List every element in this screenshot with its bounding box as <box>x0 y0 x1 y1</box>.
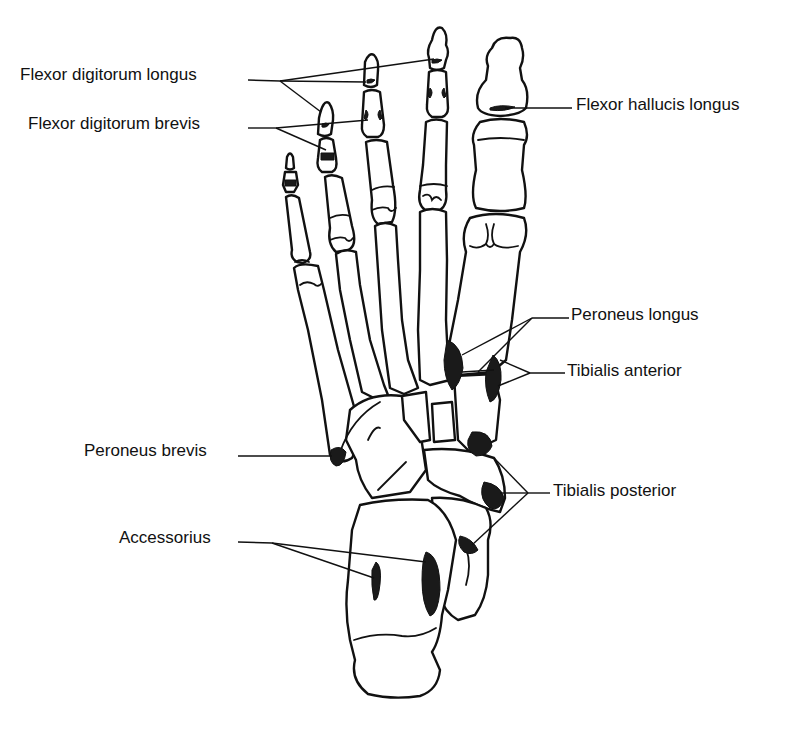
fifth-toe <box>283 154 310 264</box>
label-flexor-hallucis-longus: Flexor hallucis longus <box>576 95 739 115</box>
third-toe <box>362 54 396 224</box>
label-peroneus-brevis: Peroneus brevis <box>84 441 207 461</box>
label-peroneus-longus: Peroneus longus <box>571 305 699 325</box>
label-tibialis-posterior: Tibialis posterior <box>553 481 676 501</box>
third-metatarsal <box>375 223 418 394</box>
label-tibialis-anterior: Tibialis anterior <box>567 361 682 381</box>
calcaneus <box>346 500 456 698</box>
leader-accessorius <box>238 542 272 543</box>
label-accessorius: Accessorius <box>119 528 211 548</box>
leader-flexor-digitorum-longus <box>248 80 280 81</box>
fourth-toe <box>318 102 355 252</box>
second-toe <box>419 28 448 211</box>
great-toe <box>473 38 527 211</box>
label-flexor-digitorum-longus: Flexor digitorum longus <box>20 65 197 85</box>
label-flexor-digitorum-brevis: Flexor digitorum brevis <box>28 114 200 134</box>
intermediate-cuneiform <box>432 402 455 442</box>
